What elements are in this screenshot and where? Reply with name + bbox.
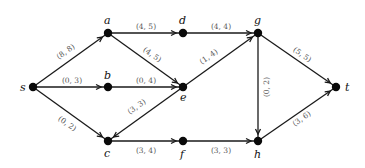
node-a [104,29,112,37]
edge-label-a-d: (4, 5) [136,22,156,31]
edge-label-g-t: (5, 5) [291,45,313,64]
node-label-d: d [179,14,186,27]
edge-label-a-e: (4, 5) [141,45,163,64]
edge-label-b-e: (0, 4) [136,76,156,85]
edge-label-f-h: (3, 3) [211,146,231,155]
node-f [179,137,187,145]
node-label-t: t [345,81,350,94]
node-label-e: e [180,91,187,104]
node-label-c: c [104,147,110,160]
edge-e-g [183,33,258,87]
node-b [104,83,112,91]
edge-label-s-b: (0, 3) [62,76,82,85]
edge-e-c [108,87,183,141]
node-label-h: h [254,148,261,161]
node-s [29,83,37,91]
edge-label-d-g: (4, 4) [211,22,231,31]
node-g [254,29,262,37]
edge-label-h-t: (3, 6) [291,109,313,128]
node-label-f: f [179,148,186,161]
edge-label-c-f: (3, 4) [136,146,156,155]
node-label-b: b [104,69,111,82]
node-d [179,29,187,37]
edge-label-e-c: (3, 3) [126,97,148,116]
node-label-g: g [254,14,261,27]
node-h [254,137,262,145]
edge-s-c [33,87,108,141]
node-label-a: a [104,14,111,27]
node-label-s: s [20,81,26,94]
node-t [332,83,340,91]
node-e [179,83,187,91]
edge-label-g-h: (0, 2) [262,77,271,97]
flow-network-diagram: (8, 8)(0, 3)(0, 2)(4, 5)(4, 5)(0, 4)(3, … [0,0,365,168]
node-c [104,137,112,145]
